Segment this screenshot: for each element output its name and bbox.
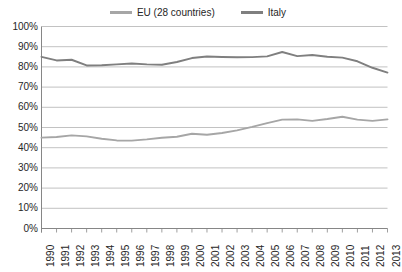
x-axis-tick-label: 1992 <box>76 244 86 266</box>
x-axis-tick-label: 2001 <box>211 244 221 266</box>
x-axis-tick-label: 1995 <box>121 244 131 266</box>
x-axis-tick-label: 2008 <box>316 244 326 266</box>
x-axis-tick-label: 2007 <box>301 244 311 266</box>
x-axis-tick-label: 2011 <box>361 245 371 267</box>
x-axis-tick-label: 1990 <box>46 244 56 266</box>
x-axis-tick-label: 2012 <box>376 244 386 266</box>
x-axis-tick-label: 2005 <box>271 244 281 266</box>
x-axis-tick-label: 1993 <box>91 244 101 266</box>
x-axis-tick-label: 1996 <box>136 244 146 266</box>
x-axis-tick-label: 1999 <box>181 244 191 266</box>
x-axis-tick-label: 2002 <box>226 244 236 266</box>
x-axis-tick-label: 1991 <box>61 244 71 266</box>
x-axis-tick-label: 2009 <box>331 244 341 266</box>
x-axis-tick-label: 2000 <box>196 244 206 266</box>
x-axis-tick-label: 2013 <box>392 244 402 266</box>
x-axis-tick-label: 2004 <box>256 244 266 266</box>
x-axis-tick-label: 1998 <box>166 244 176 266</box>
x-axis-tick-label: 2003 <box>241 244 251 266</box>
x-axis-tick-label: 2010 <box>346 244 356 266</box>
x-axis-tick-label: 2006 <box>286 244 296 266</box>
x-axis-tick-label: 1997 <box>151 244 161 266</box>
x-axis-tick-label: 1994 <box>106 244 116 266</box>
